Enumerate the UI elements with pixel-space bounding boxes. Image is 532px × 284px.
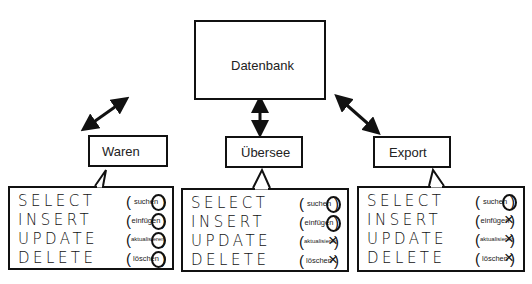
bubble-tail-uebersee [253,170,270,188]
bubble-tail-waren [95,170,106,186]
bubble-tails [0,0,532,284]
bubble-tail-export [429,170,444,186]
